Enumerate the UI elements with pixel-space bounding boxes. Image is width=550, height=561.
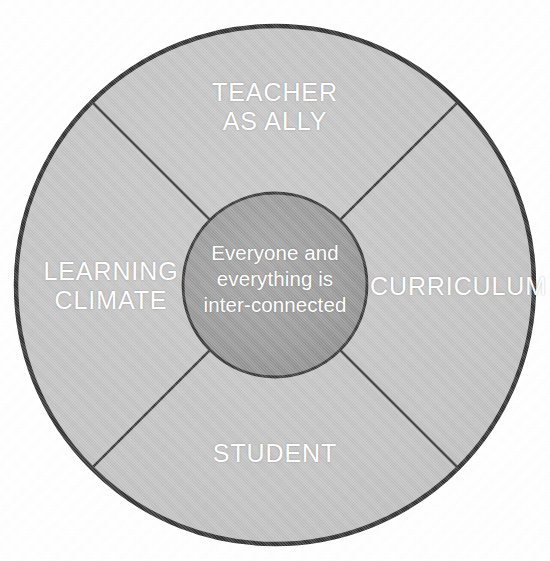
diagram-graphic [0,0,550,561]
inner-circle [183,193,367,377]
diagram-canvas: TEACHER AS ALLY CURRICULUM STUDENT LEARN… [0,0,550,561]
